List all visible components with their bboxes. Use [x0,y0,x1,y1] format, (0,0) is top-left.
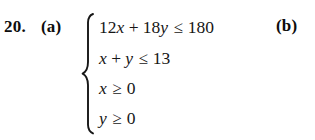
inequality-row: 12x+18y≤180 [99,19,214,37]
inequality-row: y≥0 [99,110,135,128]
exercise-figure: 20. (a) (b) 12x+18y≤180 x+y≤13 x≥0 y≥0 [0,0,315,140]
operator: + [107,48,125,68]
left-curly-brace-icon [80,12,96,136]
problem-number: 20. [4,18,26,35]
relation-symbol: ≤ [133,49,152,68]
relation-symbol: ≤ [168,18,187,37]
constant: 13 [153,48,171,68]
system-of-inequalities: 12x+18y≤180 x+y≤13 x≥0 y≥0 [80,12,280,136]
inequality-row: x+y≤13 [99,50,170,68]
constant: 0 [127,108,136,128]
variable: x [117,17,125,37]
constant: 0 [127,78,136,98]
coefficient: 12 [99,17,117,37]
inequality-row: x≥0 [99,80,135,98]
operator: + [125,17,143,37]
part-a-label: (a) [41,18,61,35]
relation-symbol: ≥ [107,79,126,98]
coefficient: 18 [143,17,161,37]
constant: 180 [188,17,214,37]
relation-symbol: ≥ [107,109,126,128]
